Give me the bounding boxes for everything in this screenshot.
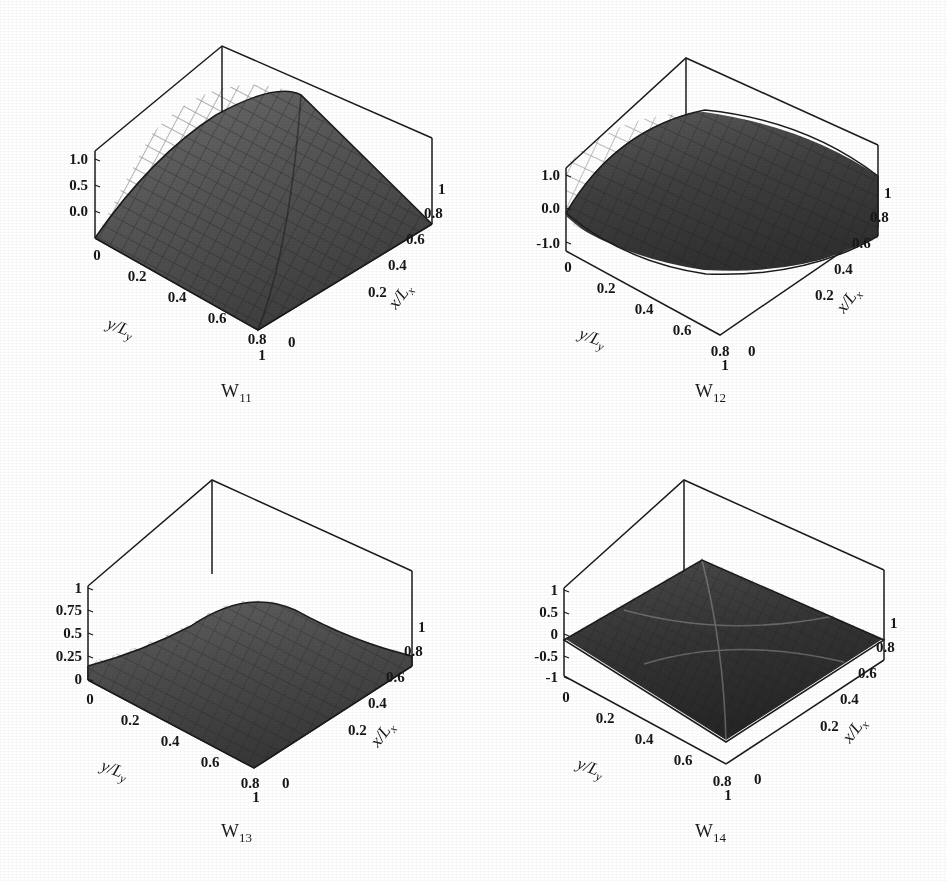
svg-text:0.5: 0.5 <box>69 177 88 193</box>
svg-text:0: 0 <box>282 775 290 791</box>
svg-text:0.8: 0.8 <box>870 209 889 225</box>
svg-text:x/Lx: x/Lx <box>384 279 419 315</box>
svg-text:0.8: 0.8 <box>248 331 267 347</box>
svg-text:0.8: 0.8 <box>404 643 423 659</box>
svg-text:1: 1 <box>75 580 83 596</box>
svg-text:0.2: 0.2 <box>596 710 615 726</box>
svg-text:0.4: 0.4 <box>161 733 180 749</box>
z-ticks-w14: 1 0.5 0 -0.5 -1 <box>534 582 558 685</box>
svg-text:0.75: 0.75 <box>56 602 82 618</box>
svg-text:0.6: 0.6 <box>852 235 871 251</box>
svg-text:-1: -1 <box>546 669 559 685</box>
x-axis-label-w14: x/Lx <box>838 713 873 749</box>
svg-text:0.4: 0.4 <box>635 731 654 747</box>
plot-w13: 1 0.75 0.5 0.25 0 0 0.2 0.4 0.6 0.8 1 <box>0 448 473 840</box>
svg-text:0.4: 0.4 <box>388 257 407 273</box>
svg-text:0.0: 0.0 <box>69 203 88 219</box>
svg-text:0.0: 0.0 <box>541 200 560 216</box>
panel-w11: 1.0 0.5 0.0 0 0.2 0.4 0.6 0.8 1 <box>0 8 473 448</box>
svg-text:0: 0 <box>551 626 559 642</box>
svg-text:0.6: 0.6 <box>406 231 425 247</box>
y-axis-label-w12: y/Ly <box>574 323 609 354</box>
svg-text:x/Lx: x/Lx <box>832 283 867 319</box>
svg-text:0.2: 0.2 <box>348 722 367 738</box>
svg-text:0.8: 0.8 <box>424 205 443 221</box>
svg-text:1.0: 1.0 <box>541 167 560 183</box>
z-ticks-w11: 1.0 0.5 0.0 <box>69 151 88 219</box>
panel-title-w14: W14 <box>474 820 947 846</box>
svg-text:0.8: 0.8 <box>876 639 895 655</box>
y-axis-label-w13: y/Ly <box>96 755 131 786</box>
y-axis-label-w11: y/Ly <box>102 313 137 344</box>
plot-w11: 1.0 0.5 0.0 0 0.2 0.4 0.6 0.8 1 <box>0 8 473 400</box>
z-ticks-w13: 1 0.75 0.5 0.25 0 <box>56 580 82 687</box>
svg-text:-0.5: -0.5 <box>534 648 558 664</box>
svg-text:0.2: 0.2 <box>368 284 387 300</box>
svg-text:0.6: 0.6 <box>673 322 692 338</box>
svg-text:1: 1 <box>890 615 898 631</box>
z-ticks-w12: 1.0 0.0 -1.0 <box>536 167 560 251</box>
panel-w14: 1 0.5 0 -0.5 -1 0 0.2 0.4 0.6 0.8 1 <box>474 448 947 881</box>
panel-title-w11: W11 <box>0 380 473 406</box>
svg-text:y/Ly: y/Ly <box>572 753 607 784</box>
x-axis-label-w12: x/Lx <box>832 283 867 319</box>
svg-text:0.2: 0.2 <box>597 280 616 296</box>
svg-text:0: 0 <box>75 671 83 687</box>
svg-text:0.2: 0.2 <box>121 712 140 728</box>
panel-w12: 1.0 0.0 -1.0 0 0.2 0.4 0.6 0.8 1 1 <box>474 8 947 448</box>
svg-text:0: 0 <box>562 689 570 705</box>
svg-text:0: 0 <box>86 691 94 707</box>
svg-text:1: 1 <box>258 347 266 363</box>
svg-text:0.4: 0.4 <box>840 691 859 707</box>
x-axis-label-w11: x/Lx <box>384 279 419 315</box>
svg-text:1: 1 <box>418 619 426 635</box>
svg-text:0.2: 0.2 <box>128 268 147 284</box>
svg-text:x/Lx: x/Lx <box>838 713 873 749</box>
svg-text:-1.0: -1.0 <box>536 235 560 251</box>
svg-text:1: 1 <box>884 185 892 201</box>
svg-text:y/Ly: y/Ly <box>574 323 609 354</box>
panel-w13: 1 0.75 0.5 0.25 0 0 0.2 0.4 0.6 0.8 1 <box>0 448 473 881</box>
svg-text:0.6: 0.6 <box>201 754 220 770</box>
svg-text:y/Ly: y/Ly <box>96 755 131 786</box>
svg-text:0.6: 0.6 <box>674 752 693 768</box>
svg-text:1: 1 <box>724 787 732 803</box>
svg-text:0.4: 0.4 <box>368 695 387 711</box>
plot-w12: 1.0 0.0 -1.0 0 0.2 0.4 0.6 0.8 1 1 <box>474 8 947 400</box>
plot-w14: 1 0.5 0 -0.5 -1 0 0.2 0.4 0.6 0.8 1 <box>474 448 947 840</box>
svg-text:0: 0 <box>754 771 762 787</box>
mode-shape-figure: 1.0 0.5 0.0 0 0.2 0.4 0.6 0.8 1 <box>0 0 947 881</box>
svg-text:1: 1 <box>721 357 729 373</box>
svg-text:y/Ly: y/Ly <box>102 313 137 344</box>
svg-text:0.4: 0.4 <box>635 301 654 317</box>
svg-text:0: 0 <box>93 247 101 263</box>
svg-text:0.4: 0.4 <box>834 261 853 277</box>
svg-text:0.5: 0.5 <box>63 625 82 641</box>
svg-text:0: 0 <box>748 343 756 359</box>
svg-text:0.2: 0.2 <box>815 287 834 303</box>
svg-text:1: 1 <box>438 181 446 197</box>
svg-text:0.5: 0.5 <box>539 604 558 620</box>
svg-text:0: 0 <box>288 334 296 350</box>
svg-text:0: 0 <box>564 259 572 275</box>
y-ticks-w12: 0 0.2 0.4 0.6 0.8 1 <box>564 259 729 373</box>
svg-text:0.25: 0.25 <box>56 648 82 664</box>
panel-title-w13: W13 <box>0 820 473 846</box>
svg-text:1.0: 1.0 <box>69 151 88 167</box>
svg-text:0.6: 0.6 <box>208 310 227 326</box>
svg-text:0.6: 0.6 <box>386 669 405 685</box>
svg-text:0.6: 0.6 <box>858 665 877 681</box>
svg-text:x/Lx: x/Lx <box>366 717 401 753</box>
panel-title-w12: W12 <box>474 380 947 406</box>
svg-text:1: 1 <box>252 789 260 805</box>
svg-text:0.4: 0.4 <box>168 289 187 305</box>
svg-text:0.2: 0.2 <box>820 718 839 734</box>
svg-text:1: 1 <box>551 582 559 598</box>
y-axis-label-w14: y/Ly <box>572 753 607 784</box>
x-axis-label-w13: x/Lx <box>366 717 401 753</box>
